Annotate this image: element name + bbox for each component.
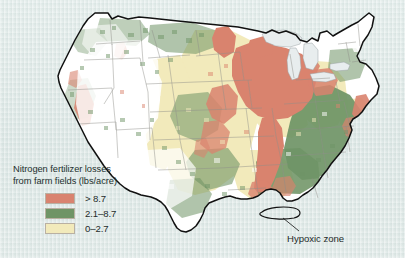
legend-row-low[interactable]: 0–2.7 (45, 221, 163, 236)
legend-title-line-2: from farm fields (lbs/acre) (13, 175, 163, 187)
hypoxic-zone-marker (260, 207, 300, 231)
legend-swatch-medium (45, 208, 75, 219)
legend-label-high: > 8.7 (85, 193, 106, 204)
legend-items: > 8.7 2.1–8.7 0–2.7 (45, 191, 163, 236)
hypoxic-zone-leader-line (283, 218, 299, 231)
legend-row-high[interactable]: > 8.7 (45, 191, 163, 206)
hypoxic-zone-label: Hypoxic zone (287, 233, 344, 244)
legend-label-low: 0–2.7 (85, 223, 109, 234)
legend-swatch-high (45, 193, 75, 204)
legend-row-medium[interactable]: 2.1–8.7 (45, 206, 163, 221)
nitrogen-loss-map-figure: Nitrogen fertilizer losses from farm fie… (0, 0, 405, 258)
legend-label-medium: 2.1–8.7 (85, 208, 116, 219)
legend-title-line-1: Nitrogen fertilizer losses (13, 163, 163, 175)
legend-swatch-low (45, 223, 75, 234)
map-legend: Nitrogen fertilizer losses from farm fie… (13, 163, 163, 236)
